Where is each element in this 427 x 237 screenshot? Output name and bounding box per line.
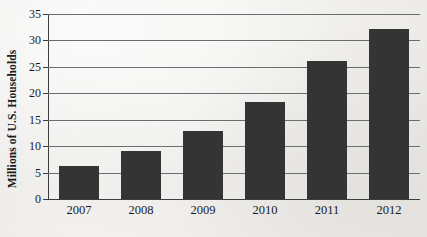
plot-area	[48, 14, 420, 199]
y-axis-tick-label: 20	[3, 86, 41, 101]
y-axis-tick-label: 30	[3, 33, 41, 48]
x-axis-tick-label: 2009	[191, 203, 216, 218]
y-axis-tick-label: 5	[3, 165, 41, 180]
bar[interactable]	[183, 131, 223, 199]
y-axis-tick-mark	[43, 199, 48, 200]
gridline	[48, 93, 420, 94]
bar[interactable]	[369, 29, 409, 199]
y-axis-tick-label: 25	[3, 59, 41, 74]
x-axis-tick-labels: 200720082009201020112012	[48, 203, 420, 233]
y-axis-tick-label: 15	[3, 112, 41, 127]
gridline	[48, 14, 420, 15]
x-axis-tick-label: 2011	[315, 203, 340, 218]
bar[interactable]	[307, 61, 347, 199]
y-axis-tick-mark	[43, 146, 48, 147]
y-axis-tick-mark	[43, 93, 48, 94]
y-axis-tick-label: 10	[3, 139, 41, 154]
y-axis-tick-mark	[43, 40, 48, 41]
gridline	[48, 199, 420, 200]
y-axis-tick-labels: 05101520253035	[0, 0, 41, 237]
bar[interactable]	[245, 102, 285, 199]
y-axis-tick-mark	[43, 67, 48, 68]
bar[interactable]	[59, 166, 99, 199]
x-axis-tick-label: 2007	[67, 203, 92, 218]
gridline	[48, 120, 420, 121]
y-axis-tick-label: 0	[3, 192, 41, 207]
x-axis-tick-label: 2010	[253, 203, 278, 218]
gridline	[48, 67, 420, 68]
gridline	[48, 40, 420, 41]
y-axis-tick-mark	[43, 120, 48, 121]
y-axis-tick-label: 35	[3, 7, 41, 22]
gridline	[48, 146, 420, 147]
y-axis-tick-mark	[43, 173, 48, 174]
bar-chart-figure: Millions of U.S. Households 051015202530…	[0, 0, 427, 237]
x-axis-tick-label: 2008	[129, 203, 154, 218]
y-axis-tick-mark	[43, 14, 48, 15]
bar[interactable]	[121, 151, 161, 199]
gridline	[48, 173, 420, 174]
x-axis-tick-label: 2012	[377, 203, 402, 218]
